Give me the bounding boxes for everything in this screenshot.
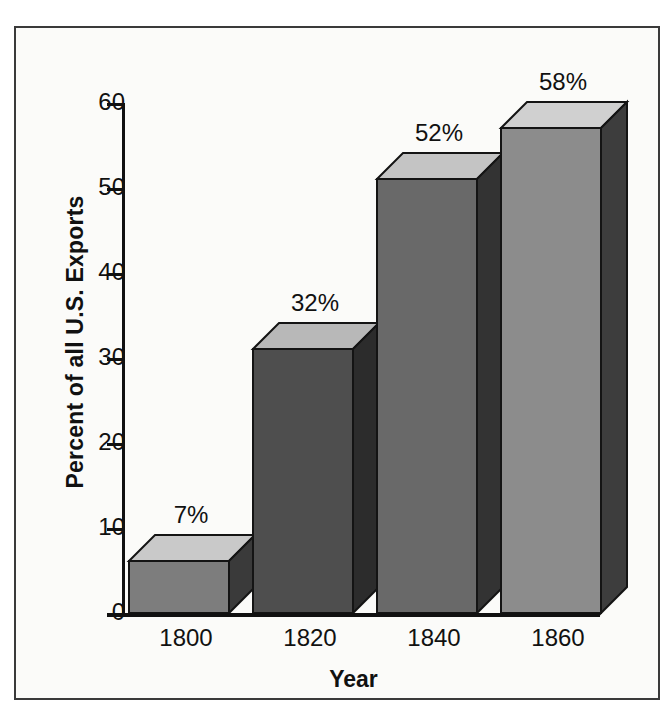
y-tick-label-60: 60 bbox=[79, 90, 125, 114]
chart-screenshot: Percent of all U.S. Exports 60 50 40 30 bbox=[0, 0, 672, 722]
y-tick-label-20: 20 bbox=[79, 430, 125, 454]
bar-1820-body bbox=[253, 103, 393, 617]
bar-1860[interactable]: 58% bbox=[501, 52, 641, 617]
bar-1800[interactable]: 7% bbox=[129, 103, 269, 617]
y-tick-label-30: 30 bbox=[79, 345, 125, 369]
bar-label-1820: 32% bbox=[245, 289, 385, 317]
bar-label-1800: 7% bbox=[121, 501, 261, 529]
plot-area: Percent of all U.S. Exports 60 50 40 30 bbox=[16, 28, 662, 702]
x-axis-title: Year bbox=[107, 666, 600, 693]
bar-1860-body bbox=[501, 52, 641, 617]
x-tick-label-1860: 1860 bbox=[493, 624, 623, 652]
x-axis-spine bbox=[107, 613, 600, 617]
y-tick-label-40: 40 bbox=[79, 260, 125, 284]
x-tick-label-1820: 1820 bbox=[245, 624, 375, 652]
x-tick-label-1840: 1840 bbox=[369, 624, 499, 652]
bar-1840[interactable]: 52% bbox=[377, 103, 517, 617]
bar-label-1840: 52% bbox=[369, 119, 509, 147]
figure-frame: Percent of all U.S. Exports 60 50 40 30 bbox=[14, 26, 660, 700]
y-tick-label-10: 10 bbox=[79, 515, 125, 539]
x-tick-label-1800: 1800 bbox=[121, 624, 251, 652]
bar-label-1860: 58% bbox=[493, 68, 633, 96]
bar-1820[interactable]: 32% bbox=[253, 103, 393, 617]
bar-1800-body bbox=[129, 103, 269, 617]
y-tick-label-0: 0 bbox=[79, 600, 125, 624]
bar-1840-body bbox=[377, 103, 517, 617]
y-tick-label-50: 50 bbox=[79, 175, 125, 199]
